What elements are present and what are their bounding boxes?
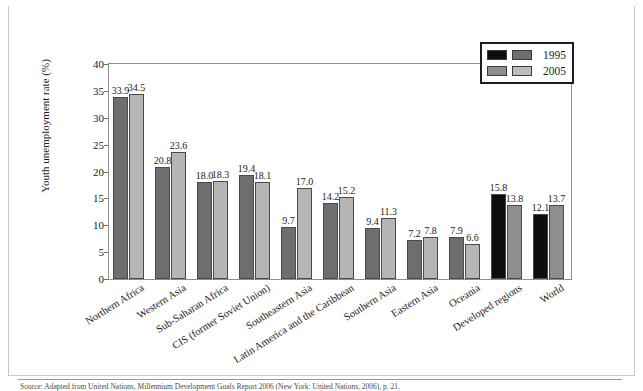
bar-value-label: 15.8 [490,183,508,193]
bar-value-label: 18.1 [254,171,272,181]
bar-value-label: 11.3 [380,207,397,217]
y-tick-mark [104,118,108,119]
y-tick-label: 20 [82,166,104,178]
y-axis-tick-labels: 0510152025303540 [80,63,104,280]
legend-swatch-b [512,50,532,60]
bar-value-label: 14.2 [322,192,340,202]
bar-value-label: 13.8 [506,194,524,204]
source-divider [18,379,622,380]
legend-swatch-b [512,66,532,76]
y-tick-mark [104,91,108,92]
bar-group: 18.018.3 [193,64,235,279]
bar-value-label: 9.4 [366,217,379,227]
bar-group: 33.934.5 [109,64,151,279]
bar-value-label: 9.7 [282,216,295,226]
y-tick-mark [104,198,108,199]
bar-group: 7.96.6 [445,64,487,279]
source-note: Source: Adapted from United Nations, Mil… [20,382,620,391]
y-tick-mark [104,64,108,65]
bar-value-label: 19.4 [238,164,256,174]
y-tick-label: 40 [82,58,104,70]
bar-group: 20.823.6 [151,64,193,279]
legend-swatch-a [487,66,507,76]
y-tick-label: 5 [82,246,104,258]
y-tick-label: 30 [82,112,104,124]
bar-1995 [155,167,170,279]
y-tick-label: 35 [82,85,104,97]
x-axis-category-labels: Northern AfricaWestern AsiaSub-Saharan A… [109,282,571,376]
bar-group: 12.113.7 [529,64,571,279]
y-tick-mark [104,145,108,146]
x-axis-label-text: Oceania [447,282,482,310]
y-tick-mark [104,279,108,280]
chart-canvas: Youth unemployment rate (%) 051015202530… [9,30,636,376]
bar-value-label: 17.0 [296,177,314,187]
bar-group: 19.418.1 [235,64,277,279]
bar-2005 [507,205,522,279]
legend-row: 1995 [487,48,566,62]
legend-label: 1995 [543,49,566,61]
x-axis-label-text: World [538,282,566,305]
legend-swatch-a [487,50,507,60]
legend-label: 2005 [543,65,566,77]
bar-value-label: 20.8 [154,156,172,166]
y-tick-mark [104,252,108,253]
bar-value-label: 18.0 [196,171,214,181]
y-tick-mark [104,225,108,226]
bar-value-label: 23.6 [170,141,188,151]
x-axis-label-text: Northern Africa [83,282,145,327]
y-tick-label: 0 [82,273,104,285]
y-axis-title: Youth unemployment rate (%) [39,46,51,206]
bar-value-label: 15.2 [338,186,356,196]
bar-value-label: 13.7 [548,194,566,204]
y-tick-label: 15 [82,192,104,204]
chart-legend: 1995 2005 [480,42,574,84]
bar-group: 15.813.8 [487,64,529,279]
bar-value-label: 34.5 [128,83,146,93]
bar-1995 [113,97,128,279]
bar-value-label: 6.6 [466,233,479,243]
y-tick-label: 10 [82,219,104,231]
bar-value-label: 18.3 [212,170,230,180]
bar-value-label: 12.1 [532,203,550,213]
y-tick-mark [104,172,108,173]
y-tick-label: 25 [82,139,104,151]
figure-body: Youth unemployment rate (%) 051015202530… [8,6,635,376]
bar-value-label: 33.9 [112,86,130,96]
legend-row: 2005 [487,64,566,78]
bar-2005 [129,94,144,279]
